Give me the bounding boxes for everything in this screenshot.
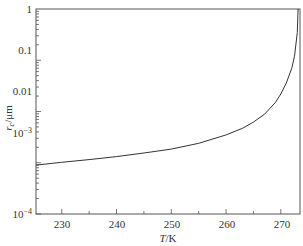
svg-text:270: 270 (274, 218, 291, 230)
y-tick-label-1e-4: 10−4 (12, 207, 32, 220)
x-axis-ticks (62, 209, 281, 214)
svg-text:230: 230 (54, 218, 71, 230)
svg-text:250: 250 (164, 218, 181, 230)
data-line (36, 9, 298, 165)
x-axis-title: T/K (159, 232, 176, 244)
y-axis-title: rc/μm (2, 105, 16, 131)
y-tick-label-1: 1 (27, 3, 33, 15)
svg-text:260: 260 (219, 218, 236, 230)
y-tick-label-0.1: 0.1 (18, 44, 32, 56)
y-axis-ticks (36, 11, 41, 214)
plot-frame (36, 9, 300, 214)
y-axis-labels: 1 0.1 0.01 10−3 10−4 (12, 3, 32, 220)
y-tick-label-1e-3: 10−3 (12, 126, 32, 139)
chart: 1 0.1 0.01 10−3 10−4 230 240 250 260 270… (0, 0, 303, 246)
y-tick-label-0.01: 0.01 (13, 85, 32, 97)
x-axis-labels: 230 240 250 260 270 (54, 218, 291, 230)
svg-text:240: 240 (109, 218, 126, 230)
